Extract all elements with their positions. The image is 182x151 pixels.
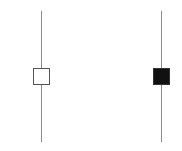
candle-body-filled bbox=[153, 68, 170, 85]
candle-body-hollow bbox=[33, 68, 50, 85]
